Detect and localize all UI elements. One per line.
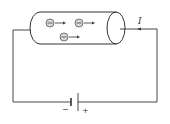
electron-1	[46, 19, 66, 27]
current-label: I	[138, 17, 142, 26]
current-arrow-icon	[137, 28, 141, 31]
conductor-cylinder	[30, 12, 125, 44]
electron-3	[60, 33, 80, 41]
battery-negative-label: −	[62, 106, 69, 114]
battery-positive-label: +	[82, 107, 89, 115]
circuit-wires	[13, 29, 157, 102]
electron-2	[75, 19, 95, 27]
battery-icon	[71, 93, 78, 111]
